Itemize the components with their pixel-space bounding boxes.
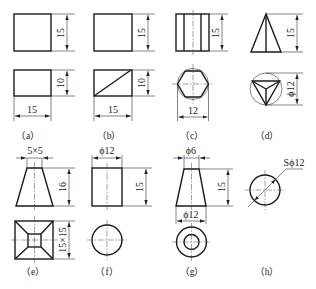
dim-width: 12 <box>188 105 198 116</box>
panel-label-g: （g） <box>180 266 205 277</box>
dim-height-bottom: 10 <box>136 78 147 88</box>
panel-e: 5×5 16 15×15 （e） <box>11 145 75 277</box>
diagonal-edge <box>94 70 131 96</box>
dim-height: 15 <box>285 28 296 38</box>
dim-height-top: 15 <box>55 28 66 38</box>
panel-label-c: （c） <box>180 130 204 141</box>
dim-height-top: 15 <box>136 28 147 38</box>
dim-bottom-diameter: ϕ12 <box>183 209 198 220</box>
cone-frustum-front-view <box>176 169 206 206</box>
dim-base: 15×15 <box>57 227 68 253</box>
panel-d: 15 ϕ12 （d） <box>250 14 303 141</box>
front-view-square <box>14 14 51 51</box>
panel-c: 15 12 （c） <box>172 10 228 141</box>
hex-prism-front-view <box>176 14 209 51</box>
panel-label-h: （h） <box>255 266 280 277</box>
dim-height-bottom: 10 <box>55 78 66 88</box>
panel-h: Sϕ12 （h） <box>245 157 304 277</box>
dim-diameter: ϕ12 <box>285 81 296 96</box>
dim-sphere-diameter: Sϕ12 <box>284 157 305 168</box>
panel-label-b: （b） <box>97 130 122 141</box>
panel-label-a: （a） <box>16 130 40 141</box>
top-view-rect <box>14 70 51 96</box>
dim-top-diameter: ϕ6 <box>186 145 196 156</box>
panel-label-d: （d） <box>255 130 280 141</box>
dim-diameter: ϕ12 <box>99 145 114 156</box>
dim-height: 16 <box>57 182 68 192</box>
dim-width: 15 <box>108 104 118 115</box>
panel-label-f: （f） <box>95 266 118 277</box>
dim-height: 15 <box>210 28 221 38</box>
dim-height: 15 <box>216 182 227 192</box>
dim-top: 5×5 <box>27 145 43 156</box>
panel-label-e: （e） <box>21 266 45 277</box>
panel-b: 15 10 15 （b） <box>94 14 155 141</box>
cylinder-top-view <box>92 225 122 255</box>
three-view-drawing-sheet: 15 10 15 （a） 15 10 15 （b） <box>0 0 316 289</box>
panel-g: ϕ6 15 ϕ12 （g） <box>172 145 233 277</box>
front-view-square <box>94 14 132 51</box>
dim-width: 15 <box>27 104 37 115</box>
panel-f: ϕ12 15 （f） <box>87 145 152 277</box>
dim-height: 15 <box>134 182 145 192</box>
panel-a: 15 10 15 （a） <box>14 14 75 141</box>
